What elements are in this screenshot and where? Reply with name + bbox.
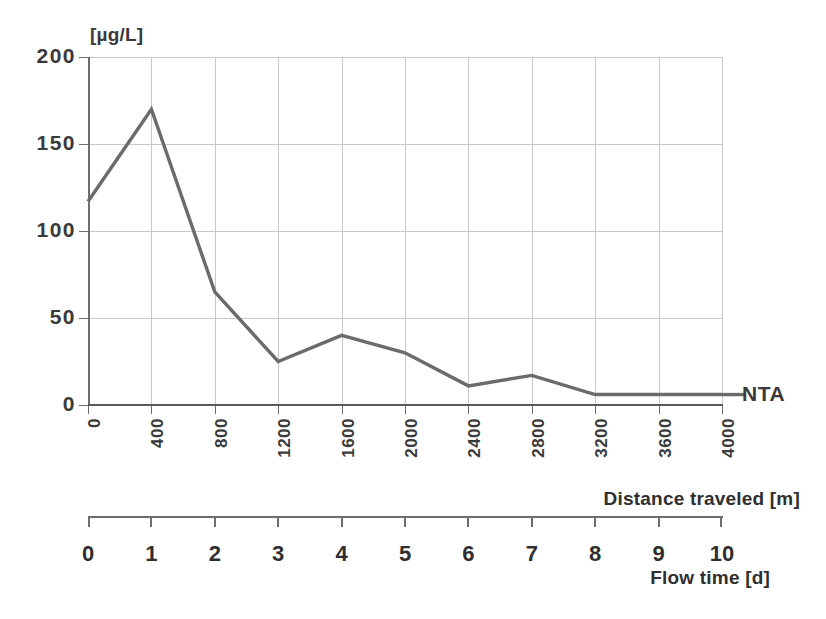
flow-time-tick-label: 0 [82,541,94,567]
x-axis-title-flow-time: Flow time [d] [0,567,770,589]
x-axis-tick [722,406,723,414]
flow-axis-tick [594,518,596,527]
x-axis-tick [532,406,533,414]
flow-axis-tick [658,518,660,527]
flow-axis-tick [341,518,343,527]
x-axis-tick-label-text: 2000 [402,418,422,458]
y-axis-unit-label: [µg/L] [90,24,143,46]
x-axis-tick-label: 4000 [729,418,749,458]
x-axis-tick [659,406,660,414]
x-axis-tick-label: 1200 [285,418,305,458]
x-axis-tick [88,406,89,414]
x-axis-tick-label: 3200 [602,418,622,458]
flow-axis-end-cap [88,516,90,527]
series-line-nta [88,57,722,405]
y-axis-tick [79,405,88,406]
x-axis-tick-label: 1600 [349,418,369,458]
x-axis-tick-label-text: 2400 [465,418,485,458]
flow-time-tick-label: 9 [652,541,664,567]
series-polyline-nta [88,109,722,394]
x-axis-tick [151,406,152,414]
flow-time-tick-label: 3 [272,541,284,567]
flow-time-tick-label: 6 [462,541,474,567]
gridline-vertical [722,57,723,405]
x-axis-tick-label: 0 [95,418,115,428]
x-axis-tick-label: 2000 [412,418,432,458]
x-axis-title-distance: Distance traveled [m] [0,488,800,510]
x-axis-tick [215,406,216,414]
y-axis-tick-label: 0 [20,392,76,416]
y-axis-tick [79,57,88,58]
flow-time-tick-label: 4 [335,541,347,567]
y-axis-tick-label: 100 [20,218,76,242]
x-axis-tick-label: 2400 [475,418,495,458]
x-axis-tick-label-text: 400 [148,418,168,448]
flow-axis-tick [150,518,152,527]
flow-axis-tick [277,518,279,527]
flow-axis-end-cap [720,516,722,527]
x-axis-tick [468,406,469,414]
flow-axis-tick [214,518,216,527]
x-axis-tick [278,406,279,414]
flow-time-tick-label: 8 [589,541,601,567]
series-label-nta: NTA [742,382,785,406]
x-axis-tick [405,406,406,414]
flow-axis-tick [467,518,469,527]
flow-time-tick-label: 2 [209,541,221,567]
flow-time-tick-label: 10 [710,541,734,567]
x-axis-tick-label-text: 3600 [656,418,676,458]
y-axis-tick [79,231,88,232]
x-axis-tick-label-text: 1600 [339,418,359,458]
x-axis-tick-label: 2800 [539,418,559,458]
y-axis-tick [79,144,88,145]
x-axis-tick-label: 400 [158,418,178,448]
x-axis-tick-label: 3600 [666,418,686,458]
x-axis-tick-label: 800 [222,418,242,448]
y-axis-tick-label: 200 [20,44,76,68]
flow-axis-tick [404,518,406,527]
plot-area [88,57,722,405]
x-axis-tick [342,406,343,414]
flow-time-axis [88,516,723,542]
y-axis-tick-label: 150 [20,131,76,155]
x-axis-tick-label-text: 3200 [592,418,612,458]
flow-time-tick-label: 5 [399,541,411,567]
x-axis-tick-label-text: 4000 [719,418,739,458]
flow-time-tick-label: 1 [145,541,157,567]
y-axis-tick-labels: 050100150200 [10,0,76,619]
chart-figure: [µg/L] 050100150200 04008001200160020002… [0,0,826,619]
x-axis-tick-label-text: 800 [212,418,232,448]
y-axis-line [88,57,90,406]
flow-axis-tick [531,518,533,527]
flow-time-tick-label: 7 [526,541,538,567]
y-axis-tick-label: 50 [20,305,76,329]
x-axis-tick-label-text: 0 [85,418,105,428]
x-axis-tick [595,406,596,414]
y-axis-tick [79,318,88,319]
x-axis-tick-label-text: 2800 [529,418,549,458]
x-axis-tick-label-text: 1200 [275,418,295,458]
